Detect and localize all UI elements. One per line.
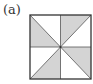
center-point [60,46,62,48]
pinwheel-square-diagram [0,0,93,84]
